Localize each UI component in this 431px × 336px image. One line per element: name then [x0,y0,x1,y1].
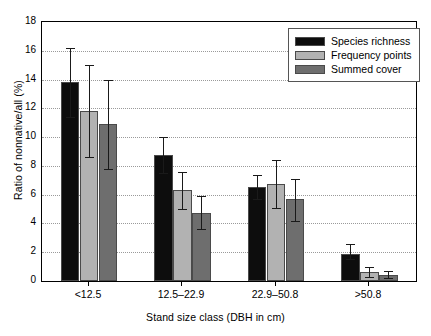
legend-label: Summed cover [331,64,402,75]
error-cap-upper [346,244,355,245]
legend-item: Summed cover [295,62,412,76]
error-cap-lower [253,199,262,200]
bar [248,187,267,281]
gridline [42,108,416,109]
error-bar [257,175,258,199]
error-cap-lower [66,117,75,118]
chart-legend: Species richnessFrequency pointsSummed c… [288,28,420,82]
x-tick-label: >50.8 [355,288,382,300]
y-tick-label: 0 [18,275,36,285]
y-tick-label: 2 [18,246,36,256]
x-tick-mark [368,281,369,286]
x-axis-title: Stand size class (DBH in cm) [0,311,431,323]
error-cap-lower [85,157,94,158]
x-tick-label: 12.5–22.9 [158,288,205,300]
y-tick-label: 8 [18,160,36,170]
error-cap-upper [178,172,187,173]
y-tick-label: 12 [18,102,36,112]
error-cap-upper [159,137,168,138]
error-bar [108,80,109,169]
legend-item: Species richness [295,34,412,48]
error-bar [276,160,277,207]
error-bar [89,65,90,157]
y-tick-label: 10 [18,131,36,141]
error-bar [388,271,389,278]
error-cap-upper [272,160,281,161]
error-cap-lower [365,277,374,278]
error-cap-lower [178,209,187,210]
y-tick-label: 4 [18,217,36,227]
error-cap-lower [272,208,281,209]
legend-swatch [295,37,325,46]
error-cap-upper [104,80,113,81]
error-cap-upper [291,179,300,180]
error-cap-upper [365,267,374,268]
x-tick-label: 22.9–50.8 [252,288,299,300]
y-tick-label: 16 [18,45,36,55]
error-bar [369,267,370,277]
x-tick-label: <12.5 [75,288,102,300]
error-bar [163,137,164,173]
x-tick-mark [275,281,276,286]
error-cap-lower [197,229,206,230]
legend-swatch [295,65,325,74]
error-bar [201,196,202,229]
legend-label: Species richness [331,36,410,47]
error-bar [182,172,183,209]
error-cap-lower [159,173,168,174]
error-cap-lower [384,278,393,279]
x-tick-mark [88,281,89,286]
error-cap-upper [197,196,206,197]
y-tick-label: 6 [18,189,36,199]
error-cap-lower [291,221,300,222]
error-bar [295,179,296,221]
bar-chart-figure: Ratio of nonnative/all (%) 0246810121416… [0,0,431,336]
x-tick-mark [181,281,182,286]
legend-item: Frequency points [295,48,412,62]
y-tick-label: 18 [18,16,36,26]
error-cap-upper [66,48,75,49]
legend-label: Frequency points [331,50,412,61]
y-axis-tick-labels: 024681012141618 [14,0,36,336]
error-bar [350,244,351,259]
error-cap-lower [104,169,113,170]
y-tick-label: 14 [18,74,36,84]
legend-swatch [295,51,325,60]
error-cap-upper [384,271,393,272]
error-cap-upper [85,65,94,66]
error-cap-lower [346,259,355,260]
error-cap-upper [253,175,262,176]
error-bar [70,48,71,117]
